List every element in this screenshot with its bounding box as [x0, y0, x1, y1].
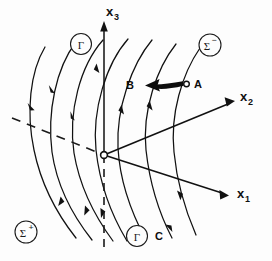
annotation-arrow-shaft: [155, 81, 184, 89]
trajectory-arrow-6a: [49, 85, 55, 93]
axis-label-x1-subscript: 1: [245, 194, 250, 204]
tag-sigma-plus-label: Σ: [20, 227, 26, 239]
trajectory-arrow-1a: [177, 191, 183, 201]
trajectory-arrow-3a: [118, 105, 124, 115]
tag-gamma-top-label: Γ: [78, 39, 84, 51]
tag-sigma-minus: Σ −: [199, 34, 221, 56]
point-labels: A B C: [126, 78, 202, 242]
point-a-marker: [184, 81, 190, 87]
phase-portrait-figure: x 3 x 2 x 1 Γ Γ Σ −: [0, 0, 272, 261]
point-label-c: C: [155, 230, 163, 242]
tag-sigma-minus-superscript: −: [211, 35, 216, 45]
trajectory-curve-7: [30, 47, 76, 238]
tag-sigma-plus-superscript: +: [28, 222, 33, 232]
axis-label-x2-base: x: [240, 89, 248, 104]
tag-sigma-minus-label: Σ: [204, 40, 210, 52]
trajectory-arrow-6b: [58, 196, 64, 206]
axis-label-x1-base: x: [237, 186, 245, 201]
trajectory-curve-3: [118, 40, 152, 240]
trajectory-curve-2: [145, 44, 176, 238]
trajectory-arrow-5b: [84, 206, 89, 216]
axis-label-x3-subscript: 3: [114, 12, 119, 22]
trajectory-curve-5: [72, 40, 113, 241]
trajectory-arrow-7a: [28, 103, 35, 111]
axis-labels: x 3 x 2 x 1: [106, 4, 253, 204]
tag-gamma-bottom: Γ: [127, 226, 148, 247]
trajectory-arrow-4a: [94, 63, 100, 73]
tag-sigma-plus: Σ +: [15, 221, 37, 243]
point-label-b: B: [126, 79, 134, 91]
point-label-a: A: [194, 78, 202, 90]
trajectory-curve-1: [173, 48, 200, 235]
trajectory-curve-4: [95, 39, 128, 241]
axis-label-x3-base: x: [106, 4, 114, 19]
figure-canvas: x 3 x 2 x 1 Γ Γ Σ −: [0, 0, 272, 261]
axis-x3-arrowhead: [100, 21, 108, 32]
origin-marker: [101, 152, 108, 159]
tag-gamma-bottom-label: Γ: [134, 231, 140, 243]
tag-gamma-top: Γ: [71, 34, 92, 55]
axis-label-x2-subscript: 2: [248, 97, 253, 107]
trajectory-family: [28, 39, 200, 241]
axis-x1-arrowhead: [219, 190, 229, 199]
separatrix-dashed-line: [12, 118, 104, 155]
